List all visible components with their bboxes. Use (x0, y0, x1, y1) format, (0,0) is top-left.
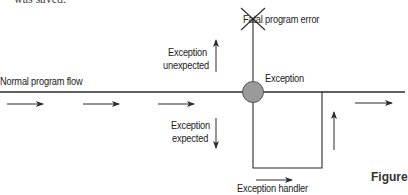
figure-label: Figure (371, 170, 408, 184)
fatal-error-label: Fatal program error (243, 13, 319, 26)
exception-unexpected-label-2: unexpected (163, 59, 209, 72)
exception-handler-path (253, 92, 322, 168)
exception-label: Exception (265, 72, 304, 85)
normal-flow-label: Normal program flow (0, 75, 82, 88)
exception-unexpected-label-1: Exception (168, 46, 207, 59)
exception-handler-label: Exception handler (237, 182, 308, 195)
exception-node (243, 82, 264, 103)
exception-expected-label-2: expected (172, 132, 208, 145)
exception-expected-label-1: Exception (171, 119, 210, 132)
